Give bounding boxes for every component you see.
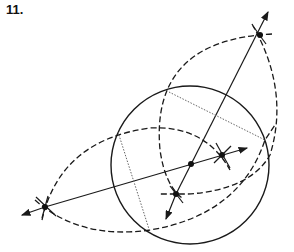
dotted-chord-upper (169, 92, 265, 140)
dotted-chord-left (118, 132, 149, 229)
line-left-right (45, 148, 247, 207)
cross-marks (36, 26, 266, 218)
geometric-construction-diagram (0, 0, 294, 252)
point-top (257, 32, 263, 38)
dashed-arc-left-lower (35, 125, 275, 232)
line-top-bottom-ext (166, 194, 176, 219)
line-left-right-ext (22, 207, 45, 215)
point-bottom-inner (173, 191, 179, 197)
point-center (188, 161, 194, 167)
point-right-inner (219, 152, 225, 158)
point-left (42, 204, 48, 210)
